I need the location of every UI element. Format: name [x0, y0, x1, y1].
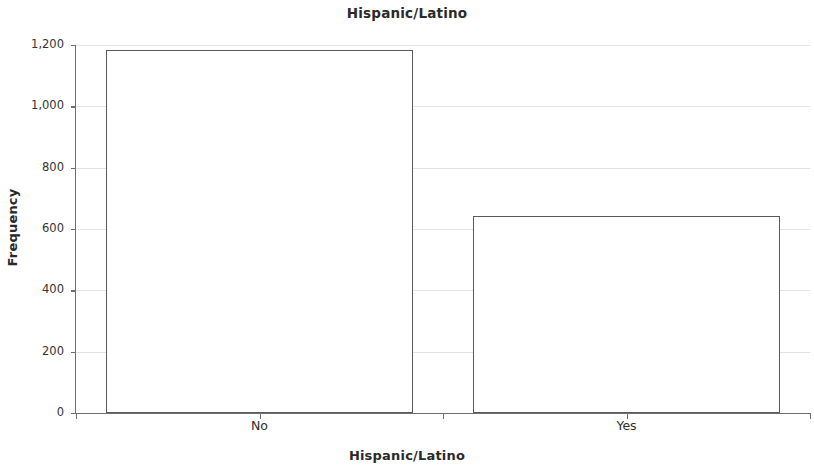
y-tick-label: 200: [4, 346, 64, 358]
y-tick-label-row: 1,000: [0, 100, 76, 112]
bar-chart: Hispanic/Latino Frequency 02004006008001…: [0, 0, 814, 469]
x-axis-label: Hispanic/Latino: [0, 448, 814, 463]
y-tick-label: 0: [4, 407, 64, 419]
y-tick-label-row: 600: [0, 223, 76, 235]
x-tick-label: Yes: [567, 418, 687, 433]
x-tick-label: No: [200, 418, 320, 433]
y-tick-label: 800: [4, 162, 64, 174]
gridline: [76, 45, 810, 46]
plot-area: [76, 45, 810, 413]
x-axis-boundary-tick: [443, 413, 444, 419]
y-tick-label: 1,200: [4, 39, 64, 51]
y-tick-label-row: 200: [0, 346, 76, 358]
bar: [106, 50, 413, 413]
y-tick-label-row: 0: [0, 407, 76, 419]
x-axis-boundary-tick: [76, 413, 77, 419]
y-tick-label: 400: [4, 284, 64, 296]
x-axis-boundary-tick: [810, 413, 811, 419]
y-tick-label: 600: [4, 223, 64, 235]
y-tick-label-row: 1,200: [0, 39, 76, 51]
y-tick-label: 1,000: [4, 100, 64, 112]
y-tick-label-row: 400: [0, 284, 76, 296]
bar: [473, 216, 780, 413]
chart-title: Hispanic/Latino: [0, 5, 814, 21]
y-tick-label-row: 800: [0, 162, 76, 174]
